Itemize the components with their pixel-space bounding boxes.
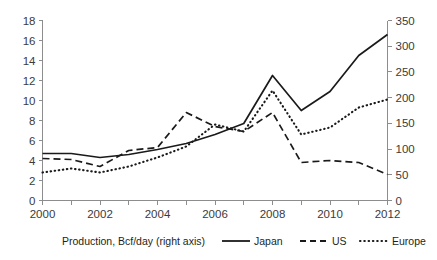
left-axis-tick-label: 6 (29, 135, 35, 147)
x-axis-tick-label: 2006 (202, 208, 228, 220)
legend-label-japan: Japan (254, 235, 283, 247)
right-axis-tick-label: 350 (396, 15, 415, 27)
x-axis-tick-label: 2008 (260, 208, 286, 220)
left-axis-tick-label: 16 (23, 35, 36, 47)
right-axis-tick-label: 300 (396, 40, 415, 52)
legend-label-europe: Europe (392, 235, 426, 247)
left-axis-tick-label: 8 (29, 115, 35, 127)
chart-background (0, 0, 437, 260)
left-axis-tick-label: 18 (23, 15, 36, 27)
left-axis-tick-label: 14 (23, 55, 36, 67)
x-axis-tick-label: 2010 (317, 208, 343, 220)
left-axis-tick-label: 2 (29, 175, 35, 187)
x-axis-tick-label: 2012 (375, 208, 401, 220)
left-axis-tick-label: 10 (23, 95, 36, 107)
chart-container: 024681012141618 050100150200250300350 20… (0, 0, 437, 260)
left-axis-tick-label: 12 (23, 75, 36, 87)
legend-label-us: US (332, 235, 347, 247)
x-axis-tick-label: 2000 (30, 208, 56, 220)
left-axis-tick-label: 4 (29, 155, 36, 167)
legend-caption: Production, Bcf/day (right axis) (62, 235, 205, 247)
line-chart: 024681012141618 050100150200250300350 20… (0, 0, 437, 260)
right-axis-tick-label: 50 (396, 169, 409, 181)
x-axis-tick-label: 2002 (87, 208, 113, 220)
right-axis-tick-label: 0 (396, 195, 402, 207)
x-axis-tick-label: 2004 (145, 208, 171, 220)
left-axis-tick-label: 0 (29, 195, 35, 207)
right-axis-tick-label: 150 (396, 117, 415, 129)
right-axis-tick-label: 250 (396, 66, 415, 78)
right-axis-tick-label: 200 (396, 92, 415, 104)
right-axis-tick-label: 100 (396, 143, 415, 155)
